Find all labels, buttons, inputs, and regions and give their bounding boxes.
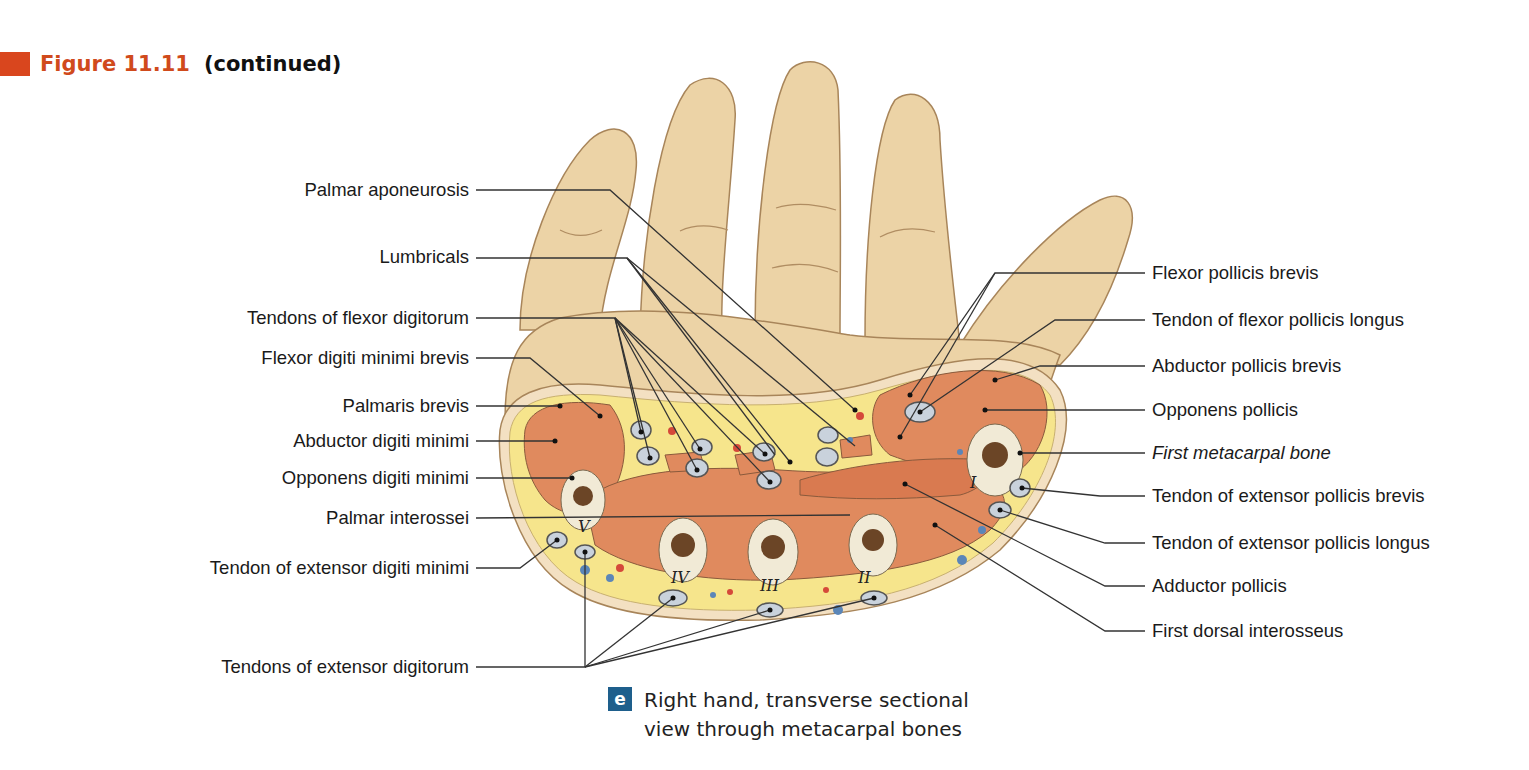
label-opponens-pollicis: Opponens pollicis xyxy=(1152,400,1298,420)
label-abductor-pollicis-brevis: Abductor pollicis brevis xyxy=(1152,356,1341,376)
caption-line-2: view through metacarpal bones xyxy=(644,715,969,744)
figure-caption: e Right hand, transverse sectional view … xyxy=(608,686,969,744)
label-palmaris-brevis: Palmaris brevis xyxy=(343,396,469,416)
numeral-v: V xyxy=(578,517,591,536)
middle-finger xyxy=(755,62,841,335)
label-adductor-pollicis: Adductor pollicis xyxy=(1152,576,1287,596)
numeral-iii: III xyxy=(759,576,780,595)
label-tendons-flexor-digitorum: Tendons of flexor digitorum xyxy=(247,308,469,328)
label-tendon-extensor-pollicis-brevis: Tendon of extensor pollicis brevis xyxy=(1152,486,1425,506)
numeral-ii: II xyxy=(857,568,871,587)
label-tendon-extensor-digiti-minimi: Tendon of extensor digiti minimi xyxy=(210,558,469,578)
label-flexor-digiti-minimi-brevis: Flexor digiti minimi brevis xyxy=(261,348,469,368)
label-abductor-digiti-minimi: Abductor digiti minimi xyxy=(293,431,469,451)
label-palmar-aponeurosis: Palmar aponeurosis xyxy=(304,180,469,200)
caption-text: Right hand, transverse sectional view th… xyxy=(644,686,969,744)
label-palmar-interossei: Palmar interossei xyxy=(326,508,469,528)
label-tendons-extensor-digitorum: Tendons of extensor digitorum xyxy=(221,657,469,677)
label-flexor-pollicis-brevis: Flexor pollicis brevis xyxy=(1152,263,1319,283)
label-first-metacarpal-bone: First metacarpal bone xyxy=(1152,443,1331,463)
label-tendon-flexor-pollicis-longus: Tendon of flexor pollicis longus xyxy=(1152,310,1404,330)
label-lumbricals: Lumbricals xyxy=(380,247,469,267)
label-first-dorsal-interosseus: First dorsal interosseus xyxy=(1152,621,1343,641)
little-finger xyxy=(520,129,636,330)
hand-cross-section-illustration: I II III IV V xyxy=(0,0,1529,770)
caption-line-1: Right hand, transverse sectional xyxy=(644,686,969,715)
numeral-i: I xyxy=(969,473,977,492)
metacarpal-ii xyxy=(849,514,897,576)
panel-letter-badge: e xyxy=(608,687,632,711)
numeral-iv: IV xyxy=(670,568,690,587)
index-finger xyxy=(865,94,960,345)
label-tendon-extensor-pollicis-longus: Tendon of extensor pollicis longus xyxy=(1152,533,1430,553)
ring-finger xyxy=(640,78,735,335)
label-opponens-digiti-minimi: Opponens digiti minimi xyxy=(282,468,469,488)
